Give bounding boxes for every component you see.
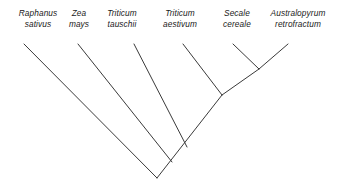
branch-triticum-tauschii (134, 44, 187, 147)
branch-triticum-aestivum (183, 44, 222, 95)
branch-raphanus-sativus (24, 44, 157, 178)
branch-zea-mays (78, 44, 172, 162)
cladogram-figure: RaphanussativusZeamaysTriticumtauschiiTr… (0, 0, 341, 184)
branch-australopyrum-retrofractum (259, 44, 288, 69)
cladogram-branches (0, 0, 341, 184)
branch-internal-secale-clade (222, 69, 259, 95)
branch-secale-cereale (233, 44, 259, 69)
